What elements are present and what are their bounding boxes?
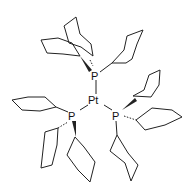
left-p-cyclohexyls — [12, 97, 95, 182]
atom-pt: Pt — [88, 94, 98, 106]
atom-p-right: P — [112, 110, 119, 122]
structure-diagram: P Pt P P — [0, 0, 192, 193]
right-p-cyclohexyls — [110, 70, 182, 181]
top-p-cyclohexyls — [41, 17, 143, 72]
atom-p-left: P — [68, 110, 75, 122]
atom-p-top: P — [91, 70, 98, 82]
